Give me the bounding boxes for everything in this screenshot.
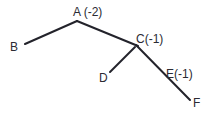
skeletal-structure-diagram: B A (-2) C(-1) D E(-1) F [0, 0, 215, 114]
vertex-label-c: C(-1) [136, 33, 163, 45]
vertex-label-b: B [10, 41, 18, 53]
vertex-label-a: A (-2) [73, 6, 102, 18]
vertex-label-e: E(-1) [166, 68, 193, 80]
vertex-label-f: F [193, 97, 200, 109]
bond-b-a [25, 21, 77, 44]
bond-a-c [77, 21, 138, 46]
bond-lines-group [0, 0, 215, 114]
bond-c-d [110, 47, 135, 72]
vertex-label-d: D [99, 72, 108, 84]
